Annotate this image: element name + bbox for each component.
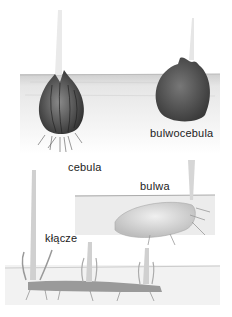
label-cebula: cebula bbox=[68, 161, 102, 173]
illustration bbox=[0, 0, 232, 317]
label-bulwocebula: bulwocebula bbox=[150, 127, 213, 139]
label-bulwa: bulwa bbox=[140, 180, 170, 192]
tuber-sprout bbox=[188, 160, 195, 200]
corm-sprout bbox=[189, 18, 194, 60]
onion-sprout bbox=[55, 10, 62, 75]
label-klacze: kłącze bbox=[45, 232, 77, 244]
corm-icon bbox=[156, 58, 210, 122]
plant-organs-illustration: cebula bulwocebula bulwa kłącze bbox=[0, 0, 232, 317]
